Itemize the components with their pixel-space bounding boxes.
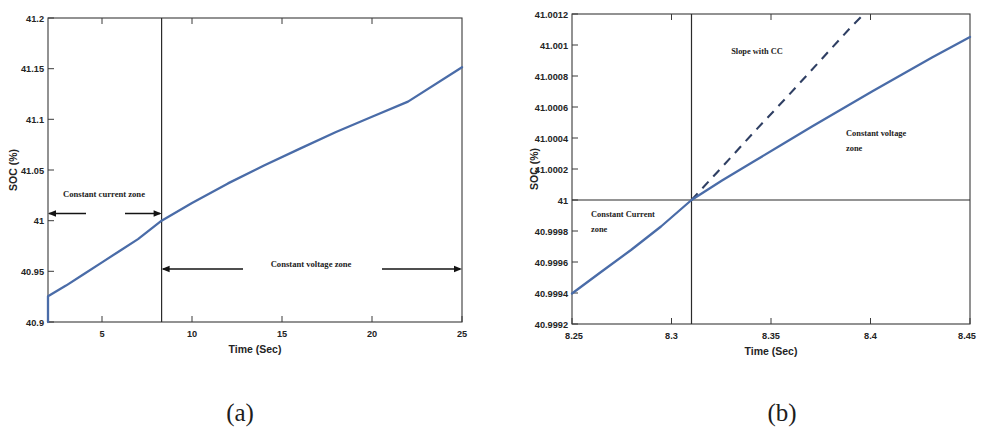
y-ticks-b [572, 14, 578, 324]
ytick-label-b: 41 [558, 196, 568, 206]
ytick-label-b: 40.9992 [535, 320, 568, 330]
y-axis-title-b: SOC (%) [528, 148, 540, 190]
ytick-label-b: 41.0008 [535, 72, 568, 82]
x-axis-title-a: Time (Sec) [229, 343, 282, 355]
xtick-label-a: 15 [277, 329, 287, 339]
xtick-label-b: 8.25 [565, 331, 583, 341]
ytick-label-a: 40.95 [21, 267, 44, 277]
ytick-label-b: 40.9998 [535, 227, 568, 237]
y-axis-title-a: SOC (%) [7, 149, 19, 191]
ytick-label-a: 41.2 [26, 14, 44, 24]
ytick-label-a: 41.05 [21, 166, 44, 176]
xtick-label-b: 8.4 [864, 331, 878, 341]
x-ticks-b [572, 14, 970, 324]
panel-b-chart: 41.0012 41.001 41.0008 41.0006 41.0004 4… [496, 0, 992, 380]
ytick-label-a: 41 [34, 216, 44, 226]
annotation-constant-voltage-zone-b-line1: Constant voltage [846, 129, 907, 138]
plot-frame-b [572, 14, 970, 324]
xtick-label-b: 8.3 [665, 331, 678, 341]
xtick-label-a: 20 [367, 329, 377, 339]
ytick-label-a: 41.1 [26, 115, 44, 125]
xtick-label-a: 25 [457, 329, 467, 339]
annotation-constant-current-zone-a: Constant current zone [63, 189, 145, 199]
xtick-label-a: 10 [187, 329, 197, 339]
ytick-label-b: 41.001 [540, 41, 568, 51]
ytick-label-b: 40.9994 [535, 289, 569, 299]
xtick-label-a: 5 [99, 329, 104, 339]
xtick-label-b: 8.45 [958, 331, 976, 341]
panel-a: 41.2 41.15 41.1 41.05 41 40.95 40.9 5 10… [0, 0, 496, 431]
ytick-label-b: 40.9996 [535, 258, 568, 268]
y-ticks-a [48, 18, 54, 322]
slope-with-cc-dashed-line-b [692, 14, 865, 200]
figure-container: 41.2 41.15 41.1 41.05 41 40.95 40.9 5 10… [0, 0, 992, 431]
panel-b: 41.0012 41.001 41.0008 41.0006 41.0004 4… [496, 0, 992, 431]
ytick-label-b: 41.0004 [535, 134, 569, 144]
ytick-label-a: 40.9 [26, 318, 44, 328]
ytick-label-b: 41.0006 [535, 103, 568, 113]
annotation-constant-current-zone-b-line2: zone [591, 225, 608, 234]
xtick-label-b: 8.35 [762, 331, 780, 341]
soc-curve-b [572, 37, 970, 294]
panel-a-sublabel: (a) [0, 399, 488, 427]
ytick-label-a: 41.15 [21, 64, 44, 74]
annotation-slope-with-cc-b: Slope with CC [731, 47, 783, 56]
arrow-constant-current-zone-a [48, 210, 162, 217]
ytick-label-b: 41.0012 [535, 10, 568, 20]
annotation-constant-voltage-zone-a: Constant voltage zone [271, 259, 352, 269]
annotation-constant-current-zone-b-line1: Constant Current [591, 210, 655, 219]
panel-b-sublabel: (b) [534, 399, 992, 427]
x-ticks-a [102, 18, 462, 322]
annotation-constant-voltage-zone-b-line2: zone [846, 144, 863, 153]
x-axis-title-b: Time (Sec) [745, 345, 798, 357]
panel-a-chart: 41.2 41.15 41.1 41.05 41 40.95 40.9 5 10… [0, 0, 496, 380]
